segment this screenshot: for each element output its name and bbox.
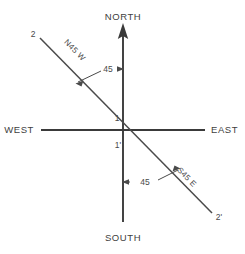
west-label: WEST	[4, 124, 34, 135]
upper-angle-annotation	[76, 66, 125, 86]
origin-mark-1: 1	[115, 113, 120, 123]
bearing-line-2-to-2prime	[40, 38, 212, 213]
origin-mark-1-prime: 1'	[115, 140, 122, 150]
upper-angle-leader-line	[78, 71, 101, 82]
endpoint-label-2: 2	[31, 29, 36, 39]
east-label: EAST	[211, 124, 238, 135]
bearing-label-northwest: N45 W	[62, 38, 87, 63]
angle-label-lower: 45	[140, 177, 150, 187]
diagram-canvas: NORTH SOUTH WEST EAST N45 W S45 E 2 2' 1…	[0, 0, 245, 254]
north-label: NORTH	[105, 11, 142, 22]
lower-angle-annotation	[122, 166, 181, 185]
south-label: SOUTH	[105, 232, 141, 243]
bearing-label-southeast: S45 E	[175, 166, 198, 189]
bearing-diagram: NORTH SOUTH WEST EAST N45 W S45 E 2 2' 1…	[0, 0, 245, 254]
bearing-line-group	[40, 38, 212, 213]
angle-label-upper: 45	[103, 64, 113, 74]
endpoint-label-2-prime: 2'	[216, 212, 223, 222]
